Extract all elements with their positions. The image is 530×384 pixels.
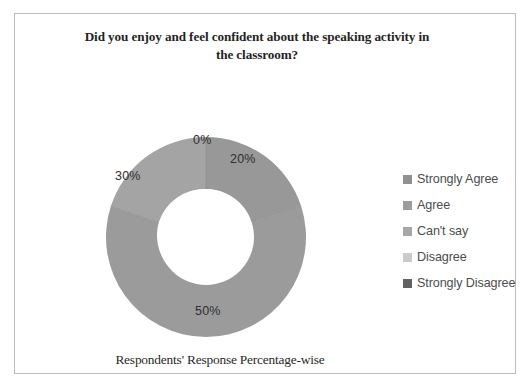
legend-swatch-icon [403,279,412,288]
legend-swatch-icon [403,175,412,184]
doughnut-hole [158,189,254,285]
chart-frame: Did you enjoy and feel confident about t… [14,13,516,374]
legend-swatch-icon [403,227,412,236]
legend-item-agree[interactable]: Agree [403,192,530,218]
legend-label: Strongly Agree [417,172,498,186]
data-label-cant-say: 50% [195,304,221,318]
chart-caption: Respondents' Response Percentage-wise [45,352,395,368]
chart-title: Did you enjoy and feel confident about t… [37,28,477,64]
data-label-agree: 20% [230,152,256,166]
legend-label: Strongly Disagree [417,276,515,290]
legend-item-cant-say[interactable]: Can't say [403,218,530,244]
legend-item-strongly-agree[interactable]: Strongly Agree [403,166,530,192]
chart-legend: Strongly Agree Agree Can't say Disagree … [403,166,530,296]
legend-label: Disagree [417,250,467,264]
chart-title-line-1: Did you enjoy and feel confident about t… [37,28,477,46]
chart-title-line-2: the classroom? [37,46,477,64]
data-label-strongly-agree: 0% [193,133,211,147]
legend-item-strongly-disagree[interactable]: Strongly Disagree [403,270,530,296]
legend-label: Agree [417,198,450,212]
data-label-disagree: 30% [115,169,141,183]
legend-swatch-icon [403,253,412,262]
legend-swatch-icon [403,201,412,210]
legend-label: Can't say [417,224,468,238]
legend-item-disagree[interactable]: Disagree [403,244,530,270]
